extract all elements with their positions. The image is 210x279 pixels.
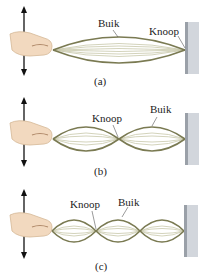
node-label: Knoop bbox=[149, 26, 179, 37]
antinode-label: Buik bbox=[150, 104, 171, 115]
hand-icon bbox=[10, 121, 52, 145]
panel-a-fundamental: Buik Knoop (a) bbox=[0, 0, 210, 95]
string-envelope bbox=[52, 220, 184, 242]
panel-caption: (c) bbox=[95, 261, 107, 272]
panel-caption: (b) bbox=[94, 166, 107, 177]
panel-c-third-harmonic: Knoop Buik (c) bbox=[0, 187, 210, 279]
panel-caption: (a) bbox=[94, 76, 106, 87]
hand-icon bbox=[10, 32, 52, 56]
wall bbox=[185, 113, 199, 165]
panel-b-second-harmonic: Knoop Buik (b) bbox=[0, 95, 210, 187]
antinode-label: Buik bbox=[118, 197, 139, 208]
node-label: Knoop bbox=[70, 199, 100, 210]
string-envelope bbox=[53, 37, 185, 63]
string-envelope bbox=[53, 127, 185, 151]
wall bbox=[185, 22, 199, 74]
hand-icon bbox=[10, 213, 52, 237]
node-label: Knoop bbox=[92, 113, 122, 124]
wall bbox=[184, 205, 198, 257]
antinode-label: Buik bbox=[98, 18, 119, 29]
